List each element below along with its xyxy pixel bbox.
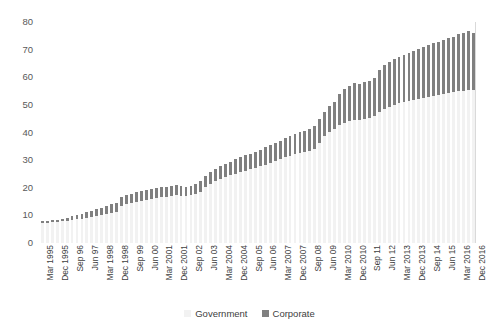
legend-item-corporate: Corporate bbox=[262, 308, 315, 319]
bar-segment-corporate bbox=[224, 164, 227, 177]
x-axis-tick-label: Mar 1998 bbox=[106, 245, 114, 280]
bar-column bbox=[209, 172, 212, 243]
bar-column bbox=[125, 195, 128, 243]
x-axis: Mar 1995Dec 1995Sep 96Jun 97Mar 1998Dec … bbox=[40, 245, 476, 303]
bar-segment-government bbox=[427, 97, 430, 243]
bar-column bbox=[95, 209, 98, 243]
bar-segment-government bbox=[66, 221, 69, 243]
bar-segment-corporate bbox=[145, 190, 148, 200]
bar-column bbox=[130, 194, 133, 243]
bar-column bbox=[403, 55, 406, 243]
bar-segment-corporate bbox=[294, 134, 297, 154]
bar-column bbox=[110, 204, 113, 243]
bar-segment-corporate bbox=[115, 203, 118, 212]
x-axis-tick-label: Sep 14 bbox=[433, 245, 441, 272]
bar-segment-corporate bbox=[130, 194, 133, 204]
bar-segment-corporate bbox=[214, 169, 217, 181]
bar-column bbox=[71, 216, 74, 243]
bar-column bbox=[457, 34, 460, 243]
bar-segment-corporate bbox=[110, 204, 113, 212]
bar-segment-corporate bbox=[190, 186, 193, 195]
bar-segment-corporate bbox=[284, 138, 287, 157]
y-axis-tick-label: 50 bbox=[0, 100, 33, 110]
bar-column bbox=[408, 53, 411, 243]
legend-swatch-government-icon bbox=[184, 310, 191, 317]
bar-segment-corporate bbox=[120, 197, 123, 206]
bar-segment-government bbox=[299, 153, 302, 243]
bar-segment-corporate bbox=[467, 31, 470, 90]
bar-segment-government bbox=[403, 102, 406, 243]
y-axis-tick-label: 10 bbox=[0, 210, 33, 220]
x-axis-tick-label: Mar 2001 bbox=[165, 245, 173, 280]
bar-segment-government bbox=[120, 206, 123, 243]
bar-segment-corporate bbox=[442, 40, 445, 94]
bar-segment-corporate bbox=[403, 55, 406, 103]
bar-segment-corporate bbox=[135, 192, 138, 202]
bar-segment-government bbox=[249, 169, 252, 243]
bar-segment-corporate bbox=[254, 152, 257, 168]
bar-segment-government bbox=[442, 94, 445, 243]
bar-segment-corporate bbox=[100, 208, 103, 215]
bar-column bbox=[388, 62, 391, 243]
bar-column bbox=[224, 164, 227, 243]
bar-column bbox=[358, 84, 361, 243]
bar-segment-government bbox=[259, 166, 262, 243]
bar-segment-government bbox=[219, 179, 222, 243]
bar-segment-government bbox=[264, 165, 267, 243]
bar-segment-government bbox=[432, 96, 435, 243]
bar-column bbox=[41, 221, 44, 243]
bar-column bbox=[432, 43, 435, 243]
bar-segment-corporate bbox=[259, 150, 262, 167]
bar-column bbox=[427, 45, 430, 243]
bar-segment-government bbox=[209, 184, 212, 243]
x-axis-tick-label: Jun 97 bbox=[91, 245, 99, 270]
bar-segment-government bbox=[105, 214, 108, 243]
bar-column bbox=[353, 83, 356, 243]
bar-segment-corporate bbox=[234, 159, 237, 173]
bar-segment-corporate bbox=[185, 187, 188, 196]
bar-segment-government bbox=[140, 201, 143, 243]
bar-column bbox=[452, 37, 455, 243]
bar-segment-government bbox=[348, 121, 351, 243]
bar-segment-government bbox=[170, 196, 173, 244]
bar-segment-corporate bbox=[432, 43, 435, 95]
x-axis-tick-label: Sep 96 bbox=[76, 245, 84, 272]
bar-column bbox=[165, 187, 168, 243]
bar-segment-corporate bbox=[393, 59, 396, 105]
bar-column bbox=[333, 102, 336, 243]
x-axis-tick-label: Dec 2007 bbox=[299, 245, 307, 281]
bar-segment-corporate bbox=[165, 187, 168, 197]
bar-segment-government bbox=[76, 219, 79, 243]
bar-segment-government bbox=[383, 109, 386, 243]
bar-column bbox=[180, 186, 183, 243]
bar-segment-corporate bbox=[194, 184, 197, 194]
bar-segment-government bbox=[313, 149, 316, 243]
bar-segment-government bbox=[358, 120, 361, 243]
bar-segment-corporate bbox=[417, 49, 420, 99]
bar-segment-government bbox=[180, 196, 183, 244]
bar-column bbox=[294, 134, 297, 243]
x-axis-tick-label: Jun 00 bbox=[151, 245, 159, 270]
bar-segment-government bbox=[194, 194, 197, 243]
bar-segment-corporate bbox=[180, 186, 183, 195]
bar-segment-corporate bbox=[412, 51, 415, 100]
bar-column bbox=[66, 218, 69, 243]
x-axis-tick-label: Dec 1995 bbox=[61, 245, 69, 281]
bar-column bbox=[249, 154, 252, 243]
bar-column bbox=[170, 186, 173, 243]
bar-column bbox=[437, 42, 440, 243]
bar-segment-corporate bbox=[199, 181, 202, 191]
bar-column bbox=[81, 214, 84, 243]
bar-segment-corporate bbox=[408, 53, 411, 101]
x-axis-tick-label: Dec 2001 bbox=[180, 245, 188, 281]
bar-segment-government bbox=[452, 92, 455, 243]
y-axis-tick-label: 30 bbox=[0, 155, 33, 165]
plot-area bbox=[40, 22, 476, 243]
bar-column bbox=[323, 112, 326, 243]
bar-column bbox=[313, 126, 316, 243]
bar-segment-government bbox=[378, 112, 381, 243]
bar-column bbox=[135, 192, 138, 243]
bar-column bbox=[194, 184, 197, 243]
bar-segment-corporate bbox=[368, 81, 371, 119]
y-axis-tick-label: 60 bbox=[0, 72, 33, 82]
